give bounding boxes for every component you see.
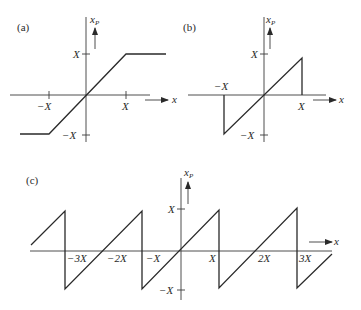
tick-label-neg2X: −2X [107, 252, 128, 264]
tick-label-3X: 3X [298, 252, 313, 264]
tick-label-2X: 2X [258, 252, 272, 264]
panel-b-label: (b) [183, 21, 196, 34]
saturation-curve [20, 54, 166, 134]
panel-a-label: (a) [17, 21, 30, 34]
tick-label-negX-y: −X [159, 284, 174, 296]
tick-label-X: X [250, 48, 259, 60]
truncated-linear-curve [224, 58, 302, 134]
panel-c: (c) x xP X −X −3X −2X −X X 2X 3X [26, 166, 339, 300]
tick-label-negX-x: −X [146, 252, 161, 264]
figure: (a) x xP X −X −X X (b) x xP X −X −X [0, 0, 361, 310]
y-axis-label: xP [265, 13, 276, 27]
x-axis-label: x [333, 235, 339, 247]
tick-label-X: X [167, 203, 176, 215]
tick-label-X-x: X [208, 252, 217, 264]
tick-label-neg3X: −3X [67, 252, 88, 264]
panel-b: (b) x xP X −X −X X [183, 13, 344, 142]
x-axis-label: x [338, 93, 344, 105]
tick-label-X-x: X [121, 100, 130, 112]
tick-label-negX-y: −X [62, 129, 77, 141]
panel-a: (a) x xP X −X −X X [10, 13, 177, 142]
panel-c-label: (c) [26, 174, 39, 187]
sawtooth-curve [31, 208, 332, 289]
x-axis-label: x [171, 93, 177, 105]
tick-label-X: X [72, 48, 81, 60]
y-axis-label: xP [183, 166, 194, 180]
tick-label-negX-y: −X [240, 129, 255, 141]
tick-label-negX-x: −X [37, 100, 52, 112]
tick-label-negX-x: −X [214, 80, 229, 92]
tick-label-X-x: X [297, 100, 306, 112]
y-axis-label: xP [89, 13, 100, 27]
